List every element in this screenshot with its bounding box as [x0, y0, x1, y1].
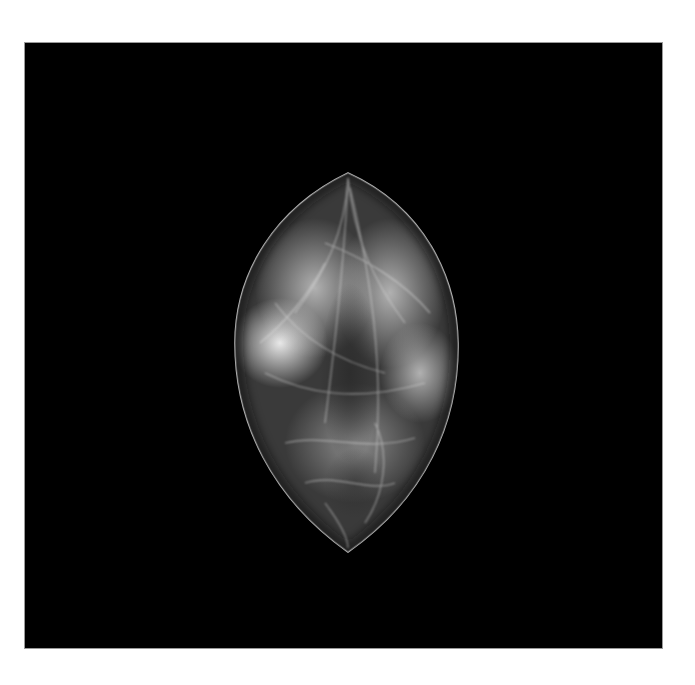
mammogram-scan: [25, 43, 662, 648]
image-panel: [25, 43, 662, 648]
